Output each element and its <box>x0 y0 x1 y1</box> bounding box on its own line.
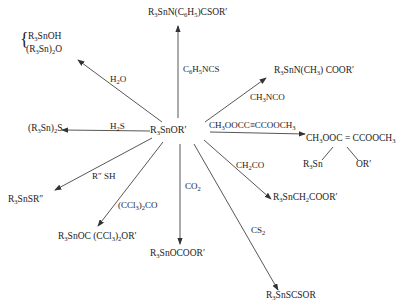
reagent-cs2: CS2 <box>251 226 265 237</box>
product-xanthate: R3SnSCSOR <box>266 291 316 302</box>
product-hexachloro-ether: R3SnOC (CCl3)2OR′ <box>58 232 137 243</box>
product-phenyl-thiocarbamate: R3SnN(C6H5)CSOR′ <box>148 8 227 19</box>
product-maleate: CH3OOC = CCOOCH3 <box>306 134 395 145</box>
arrow-thiol <box>55 138 152 190</box>
product-substituent-r3sn: R3Sn <box>303 160 323 171</box>
reagent-h2o: H2O <box>110 75 126 86</box>
reagent-hexachloroacetone: (CCl3)2CO <box>118 201 158 212</box>
reagent-thiol: R″ SH <box>92 172 116 181</box>
reagent-c6h5ncs: C6H5NCS <box>183 65 220 76</box>
reagent-ch3nco: CH3NCO <box>250 93 285 104</box>
product-methyl-carbamate: R3SnN(CH3) COOR′ <box>274 66 354 77</box>
product-distannthiane: (R3Sn)2S <box>28 124 63 135</box>
reagent-co2: CO2 <box>185 182 201 193</box>
arrow-h2s <box>62 130 150 131</box>
product-carbonate: R3SnOCOOR′ <box>150 249 205 260</box>
product-distannoxane: (R3Sn)2O <box>26 45 62 56</box>
product-substituent-or: OR′ <box>356 160 371 170</box>
bond-r3sn <box>322 147 333 160</box>
center-compound: R3SnOR′ <box>150 125 187 137</box>
reagent-h2s: H2S <box>110 122 125 133</box>
product-stannyl-sulfide: R3SnSR″ <box>8 195 43 206</box>
arrow-h2o <box>78 60 162 122</box>
arrow-hexachloroacetone <box>98 142 163 226</box>
product-stannanol: R3SnOH <box>28 32 61 43</box>
reagent-dmad: CH3OOCC≡CCOOCH3 <box>209 121 296 132</box>
product-stannyl-acetate: R3SnCH2COOR′ <box>273 193 338 204</box>
arrow-dmad <box>210 132 305 134</box>
reagent-ch2co: CH2CO <box>236 161 264 172</box>
